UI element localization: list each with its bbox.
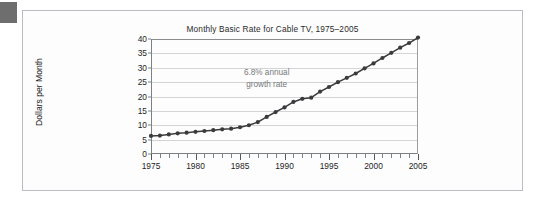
x-axis-tick-minor bbox=[169, 154, 170, 158]
x-axis-tick-minor bbox=[160, 154, 161, 158]
x-axis-tick-minor bbox=[258, 154, 259, 158]
x-axis-tick-minor bbox=[204, 154, 205, 158]
x-axis-tick-major bbox=[240, 154, 241, 160]
y-axis-tick-label: 15 bbox=[138, 106, 147, 116]
data-point-marker bbox=[274, 110, 278, 114]
data-point-marker bbox=[336, 80, 340, 84]
x-axis-tick-label: 1975 bbox=[142, 161, 161, 171]
y-axis-tick-label: 35 bbox=[138, 48, 147, 58]
data-point-marker bbox=[202, 129, 206, 133]
x-axis-tick-minor bbox=[302, 154, 303, 158]
data-point-marker bbox=[300, 97, 304, 101]
data-point-marker bbox=[407, 41, 411, 45]
x-axis-tick-minor bbox=[356, 154, 357, 158]
data-point-marker bbox=[167, 132, 171, 136]
data-point-marker bbox=[354, 71, 358, 75]
data-point-marker bbox=[149, 134, 153, 138]
x-axis-tick-minor bbox=[400, 154, 401, 158]
y-axis-title: Dollars per Month bbox=[34, 48, 44, 136]
x-axis-tick-major bbox=[374, 154, 375, 160]
data-point-marker bbox=[185, 131, 189, 135]
data-point-marker bbox=[345, 76, 349, 80]
y-axis-tick-label: 0 bbox=[142, 149, 147, 159]
data-series-line bbox=[151, 39, 418, 154]
series-polyline bbox=[151, 38, 418, 136]
data-point-marker bbox=[389, 51, 393, 55]
x-axis-tick-minor bbox=[338, 154, 339, 158]
y-axis-tick-label: 25 bbox=[138, 77, 147, 87]
x-axis-tick-label: 1995 bbox=[320, 161, 339, 171]
x-axis-tick-minor bbox=[178, 154, 179, 158]
data-point-marker bbox=[265, 115, 269, 119]
x-axis-tick-major bbox=[196, 154, 197, 160]
data-point-marker bbox=[416, 35, 420, 39]
y-axis-tick-label: 5 bbox=[142, 135, 147, 145]
y-axis-tick-label: 10 bbox=[138, 120, 147, 130]
data-point-marker bbox=[193, 130, 197, 134]
x-axis-tick-label: 2000 bbox=[364, 161, 383, 171]
data-point-marker bbox=[220, 127, 224, 131]
chart-card: Monthly Basic Rate for Cable TV, 1975–20… bbox=[22, 10, 523, 191]
x-axis-tick-minor bbox=[409, 154, 410, 158]
x-axis-tick-minor bbox=[293, 154, 294, 158]
y-axis-tick-label: 30 bbox=[138, 63, 147, 73]
x-axis-tick-major bbox=[418, 154, 419, 160]
data-point-marker bbox=[309, 96, 313, 100]
data-point-marker bbox=[256, 120, 260, 124]
data-point-marker bbox=[318, 90, 322, 94]
x-axis-tick-minor bbox=[347, 154, 348, 158]
x-axis-tick-label: 1985 bbox=[231, 161, 250, 171]
data-point-marker bbox=[363, 66, 367, 70]
page-corner-mark bbox=[0, 2, 17, 23]
x-axis-tick-minor bbox=[320, 154, 321, 158]
chart-title: Monthly Basic Rate for Cable TV, 1975–20… bbox=[23, 24, 522, 34]
x-axis-tick-minor bbox=[222, 154, 223, 158]
x-axis-tick-minor bbox=[213, 154, 214, 158]
data-point-marker bbox=[282, 105, 286, 109]
data-point-marker bbox=[327, 85, 331, 89]
data-point-marker bbox=[398, 46, 402, 50]
data-point-marker bbox=[380, 56, 384, 60]
x-axis-tick-minor bbox=[267, 154, 268, 158]
x-axis-tick-label: 1990 bbox=[275, 161, 294, 171]
x-axis-tick-minor bbox=[276, 154, 277, 158]
x-axis-tick-minor bbox=[382, 154, 383, 158]
x-axis-tick-major bbox=[285, 154, 286, 160]
x-axis-tick-minor bbox=[187, 154, 188, 158]
x-axis-tick-major bbox=[329, 154, 330, 160]
x-axis-tick-minor bbox=[231, 154, 232, 158]
x-axis-tick-minor bbox=[365, 154, 366, 158]
x-axis-tick-minor bbox=[249, 154, 250, 158]
data-point-marker bbox=[176, 131, 180, 135]
data-point-marker bbox=[371, 61, 375, 65]
plot-area: 0510152025303540 19751980198519901995200… bbox=[151, 39, 418, 154]
data-point-marker bbox=[158, 134, 162, 138]
x-axis-tick-label: 1980 bbox=[186, 161, 205, 171]
data-point-marker bbox=[247, 123, 251, 127]
x-axis-tick-major bbox=[151, 154, 152, 160]
data-point-marker bbox=[211, 128, 215, 132]
x-axis-tick-minor bbox=[311, 154, 312, 158]
y-axis-tick-label: 40 bbox=[138, 34, 147, 44]
data-point-marker bbox=[229, 127, 233, 131]
data-point-marker bbox=[238, 125, 242, 129]
y-axis-tick-label: 20 bbox=[138, 92, 147, 102]
x-axis-tick-minor bbox=[391, 154, 392, 158]
x-axis-tick-label: 2005 bbox=[409, 161, 428, 171]
data-point-marker bbox=[291, 100, 295, 104]
